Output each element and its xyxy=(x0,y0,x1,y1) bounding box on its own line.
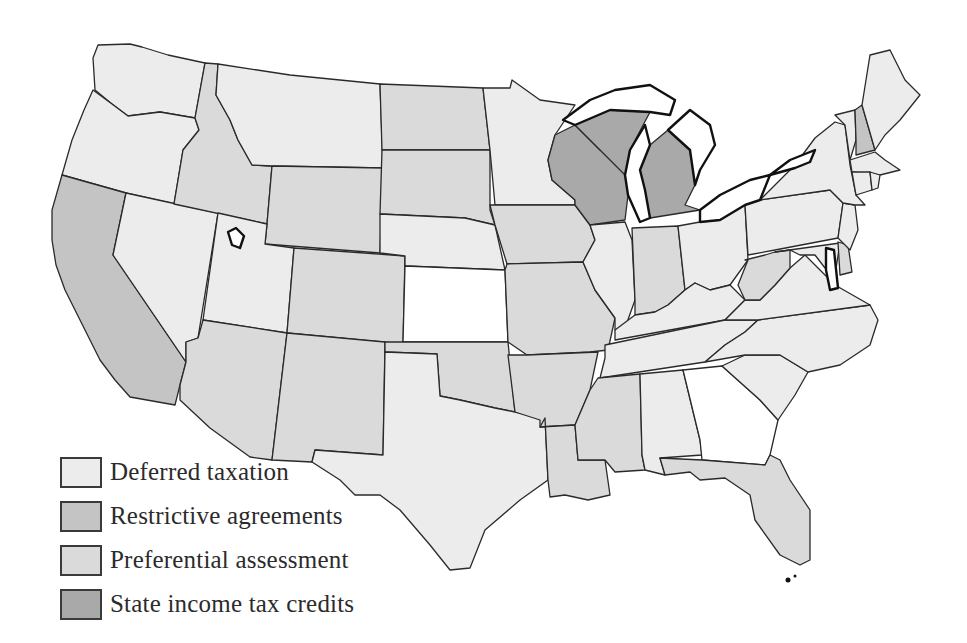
state-RI xyxy=(870,172,880,190)
map-legend: Deferred taxation Restrictive agreements… xyxy=(60,450,354,626)
legend-swatch-preferential xyxy=(60,545,102,576)
state-WY xyxy=(265,166,383,253)
legend-swatch-deferred xyxy=(60,457,102,488)
legend-label: State income tax credits xyxy=(110,590,354,618)
state-FL xyxy=(660,455,810,565)
legend-label: Preferential assessment xyxy=(110,546,349,574)
legend-label: Restrictive agreements xyxy=(110,502,343,530)
legend-item-income-tax: State income tax credits xyxy=(60,582,354,626)
state-AZ xyxy=(180,320,287,460)
legend-swatch-income-tax xyxy=(60,589,102,620)
legend-item-preferential: Preferential assessment xyxy=(60,538,354,582)
state-CT xyxy=(852,172,872,195)
state-KS xyxy=(403,266,508,342)
state-ME xyxy=(862,50,920,150)
legend-item-restrictive: Restrictive agreements xyxy=(60,494,354,538)
state-ND xyxy=(380,84,490,150)
legend-swatch-restrictive xyxy=(60,501,102,532)
florida-keys xyxy=(786,578,791,583)
state-NM xyxy=(272,333,385,462)
state-SD xyxy=(380,150,495,225)
state-IA xyxy=(490,205,595,264)
legend-label: Deferred taxation xyxy=(110,458,289,486)
legend-item-deferred: Deferred taxation xyxy=(60,450,354,494)
state-CO xyxy=(287,248,405,344)
florida-keys xyxy=(794,575,797,578)
